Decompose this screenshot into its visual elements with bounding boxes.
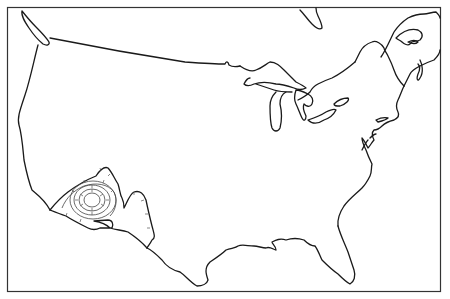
st-lawrence-south-shore bbox=[355, 41, 404, 86]
vancouver-island bbox=[22, 11, 49, 45]
lake-superior bbox=[240, 62, 306, 90]
lake-michigan bbox=[270, 92, 286, 131]
map-svg bbox=[0, 0, 450, 299]
lake-huron bbox=[295, 90, 313, 120]
hachured-contours bbox=[62, 168, 150, 228]
nova-scotia bbox=[417, 60, 422, 80]
us-west-coast bbox=[18, 45, 50, 210]
st-lawrence-north-shore bbox=[381, 12, 440, 57]
us-outline-map bbox=[0, 0, 450, 299]
cape-cod bbox=[376, 118, 388, 122]
canada-border bbox=[50, 38, 240, 67]
gulf-coast bbox=[147, 226, 355, 286]
lake-erie bbox=[308, 109, 336, 123]
ontario-quebec-line bbox=[298, 62, 355, 100]
lake-ontario bbox=[334, 98, 349, 106]
map-frame bbox=[8, 8, 441, 292]
southwest-border bbox=[50, 167, 154, 248]
mexico-border bbox=[50, 210, 147, 248]
atlantic-coast bbox=[338, 86, 404, 226]
james-bay bbox=[300, 8, 322, 29]
